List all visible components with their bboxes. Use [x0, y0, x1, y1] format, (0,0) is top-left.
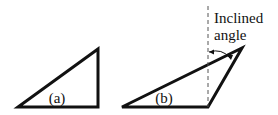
triangle-a-label: (a) [49, 90, 66, 107]
arrowhead-icon [209, 50, 214, 55]
triangles-diagram: (a) (b) Inclined angle [0, 0, 278, 115]
annotation-line2: angle [214, 27, 247, 43]
arrowhead-icon [227, 55, 233, 60]
triangle-b: (b) [122, 48, 242, 107]
triangle-a: (a) [18, 49, 98, 107]
triangle-b-label: (b) [155, 90, 173, 107]
annotation-line1: Inclined [214, 10, 264, 26]
